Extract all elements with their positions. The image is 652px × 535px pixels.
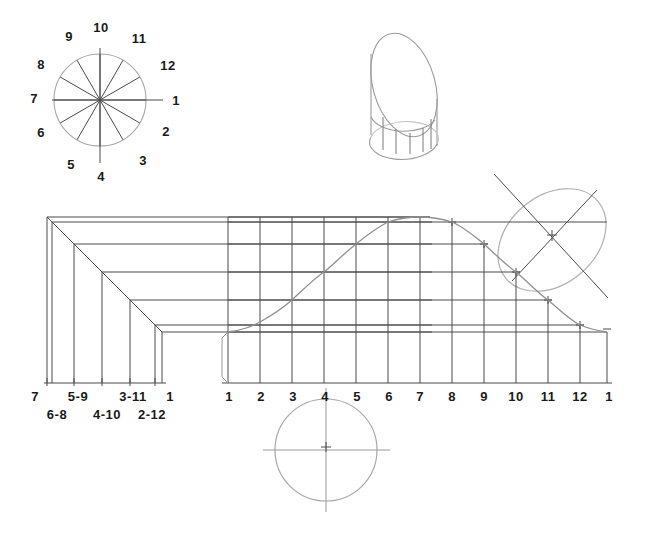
plan-label-6: 6 — [37, 126, 45, 139]
auxiliary-view-group — [44, 217, 432, 386]
dev-label-11: 11 — [541, 390, 556, 403]
aux-label-1: 1 — [166, 390, 174, 403]
plan-label-4: 4 — [97, 170, 105, 183]
plan-label-12: 12 — [160, 59, 175, 72]
plan-label-5: 5 — [67, 158, 75, 171]
aux-cut-line — [47, 217, 162, 332]
aux-label-7: 7 — [31, 390, 39, 403]
cylinder-base-back — [370, 119, 439, 148]
dev-label-2: 2 — [257, 390, 265, 403]
cut-face-ellipse — [360, 26, 449, 145]
aux-label-5-9: 5-9 — [68, 390, 88, 403]
plan-circle-group — [52, 48, 163, 163]
true-shape-axes — [494, 174, 608, 298]
development-sine-curve — [228, 217, 607, 332]
true-shape-ellipse-group — [478, 168, 626, 313]
dev-label-1-end: 1 — [605, 390, 613, 403]
dev-label-5: 5 — [353, 390, 361, 403]
pictorial-cylinder-group — [360, 26, 449, 162]
plan-label-11: 11 — [132, 32, 147, 45]
plan-label-2: 2 — [162, 125, 170, 138]
aux-label-3-11: 3-11 — [119, 390, 146, 403]
aux-label-6-8: 6-8 — [47, 408, 67, 421]
cylinder-base-front — [369, 133, 438, 162]
dev-label-8: 8 — [448, 390, 456, 403]
drawing-geometry — [0, 0, 652, 535]
bottom-circle-group — [263, 388, 390, 512]
dev-label-4: 4 — [321, 390, 329, 403]
plan-label-1: 1 — [172, 94, 180, 107]
dev-label-7: 7 — [416, 390, 424, 403]
technical-drawing-canvas: 1 2 3 4 5 6 7 8 9 10 11 12 7 5-9 3-11 1 … — [0, 0, 652, 535]
dev-label-12: 12 — [572, 390, 587, 403]
dev-label-1: 1 — [225, 390, 233, 403]
true-shape-center-tick — [547, 230, 557, 241]
development-grid-group — [222, 217, 612, 383]
dev-label-9: 9 — [480, 390, 488, 403]
aux-label-2-12: 2-12 — [138, 408, 166, 421]
dev-left-seam — [222, 332, 228, 383]
plan-label-7: 7 — [30, 92, 38, 105]
plan-label-9: 9 — [65, 30, 73, 43]
dev-label-3: 3 — [289, 390, 297, 403]
aux-label-4-10: 4-10 — [93, 408, 121, 421]
dev-label-10: 10 — [508, 390, 523, 403]
plan-label-3: 3 — [139, 154, 147, 167]
dev-label-6: 6 — [385, 390, 393, 403]
aux-baseline-ticks — [47, 378, 155, 386]
plan-label-8: 8 — [37, 58, 45, 71]
plan-label-10: 10 — [93, 21, 108, 34]
